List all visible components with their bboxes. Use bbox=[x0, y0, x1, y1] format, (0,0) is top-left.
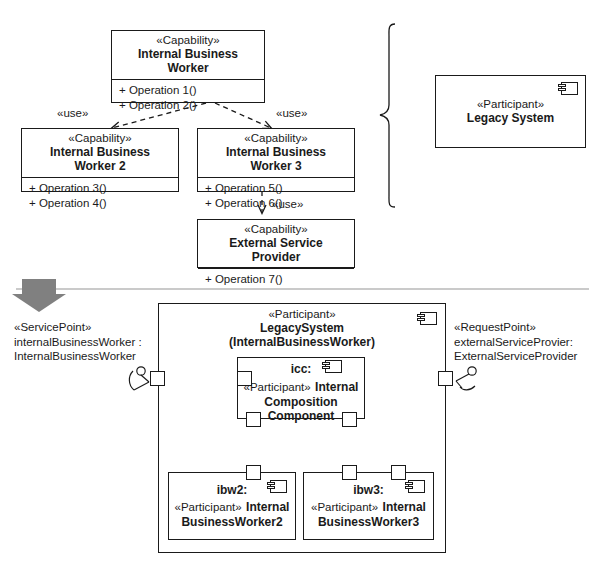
servicepoint-stereotype: «ServicePoint» bbox=[14, 320, 142, 335]
component-icon bbox=[408, 480, 425, 493]
port-icc-bottom-right[interactable] bbox=[342, 412, 357, 427]
class-name: External Service Provider bbox=[204, 236, 348, 264]
port-ibw3-top-right[interactable] bbox=[391, 465, 406, 480]
required-interface-socket-servicepoint bbox=[129, 371, 134, 390]
component-icon bbox=[561, 82, 578, 95]
operation-item: + Operation 5() bbox=[205, 181, 347, 196]
port-requestpoint-outer[interactable] bbox=[438, 371, 453, 386]
class-stereotype: «Capability» bbox=[28, 132, 172, 145]
ibw2-name-line2: BusinessWorker2 bbox=[181, 515, 282, 529]
icc-instance-name: icc: bbox=[291, 362, 312, 376]
class-name: Internal Business Worker 3 bbox=[204, 145, 348, 173]
servicepoint-annotation: «ServicePoint» internalBusinessWorker : … bbox=[14, 320, 142, 364]
socket-stem-servicepoint bbox=[134, 382, 149, 390]
ibw3-name-line2: BusinessWorker3 bbox=[318, 515, 419, 529]
outer-component-stereotype: «Participant» bbox=[159, 308, 445, 321]
class-stereotype: «Capability» bbox=[204, 132, 348, 145]
servicepoint-instance: internalBusinessWorker : bbox=[14, 335, 142, 350]
requestpoint-stereotype: «RequestPoint» bbox=[454, 320, 577, 335]
grouping-brace bbox=[380, 24, 395, 207]
operation-item: + Operation 2() bbox=[119, 98, 257, 113]
icc-name-line2: Composition bbox=[238, 395, 364, 409]
outer-component-name: LegacySystem bbox=[159, 321, 445, 335]
component-internal-composition-component[interactable]: icc: «Participant» Internal Composition … bbox=[237, 357, 365, 419]
requestpoint-annotation: «RequestPoint» externalServiceProvier: E… bbox=[454, 320, 577, 364]
component-stereotype: «Participant» bbox=[477, 98, 544, 111]
class-name: Internal Business Worker 2 bbox=[28, 145, 172, 173]
port-ibw2-top[interactable] bbox=[246, 465, 261, 480]
ibw3-name-line1: Internal bbox=[383, 500, 426, 514]
use-label-ibw2: «use» bbox=[57, 106, 88, 121]
outer-component-realizes: (InternalBusinessWorker) bbox=[159, 335, 445, 349]
component-icon bbox=[420, 312, 437, 325]
operation-item: + Operation 4() bbox=[29, 196, 171, 211]
component-icon bbox=[325, 360, 342, 373]
class-internal-business-worker-3[interactable]: «Capability» Internal Business Worker 3 … bbox=[197, 128, 355, 192]
component-legacy-system[interactable]: «Participant» Legacy System bbox=[435, 75, 586, 148]
component-ibw2-part[interactable]: ibw2: «Participant» Internal BusinessWor… bbox=[168, 472, 296, 540]
component-icon bbox=[270, 480, 287, 493]
class-external-service-provider[interactable]: «Capability» External Service Provider +… bbox=[197, 219, 355, 268]
class-operations: + Operation 3() + Operation 4() bbox=[22, 178, 178, 213]
ibw3-stereotype: «Participant» bbox=[311, 501, 378, 513]
transformation-arrow bbox=[12, 279, 66, 312]
class-name: Internal Business Worker bbox=[118, 47, 258, 75]
use-label-esp: «use» bbox=[272, 197, 303, 212]
operation-item: + Operation 1() bbox=[119, 83, 257, 98]
requestpoint-instance: externalServiceProvier: bbox=[454, 335, 577, 350]
use-label-ibw3: «use» bbox=[276, 106, 307, 121]
port-icc-left[interactable] bbox=[237, 371, 252, 386]
class-operations: + Operation 7() bbox=[198, 269, 354, 290]
icc-name-line1: Internal bbox=[315, 380, 358, 394]
class-internal-business-worker-2[interactable]: «Capability» Internal Business Worker 2 … bbox=[21, 128, 179, 192]
uml-diagram-canvas: «Capability» Internal Business Worker + … bbox=[0, 0, 601, 571]
servicepoint-type: InternalBusinessWorker bbox=[14, 349, 142, 364]
operation-item: + Operation 3() bbox=[29, 181, 171, 196]
component-name: Legacy System bbox=[467, 111, 554, 125]
socket-stem-requestpoint bbox=[456, 381, 462, 388]
component-ibw3-part[interactable]: ibw3: «Participant» Internal BusinessWor… bbox=[303, 472, 434, 540]
ball-stem-requestpoint bbox=[456, 374, 469, 381]
class-stereotype: «Capability» bbox=[118, 34, 258, 47]
class-stereotype: «Capability» bbox=[204, 223, 348, 236]
class-internal-business-worker[interactable]: «Capability» Internal Business Worker + … bbox=[111, 30, 265, 103]
ibw2-instance-name: ibw2: bbox=[217, 483, 248, 497]
ibw2-name-line1: Internal bbox=[246, 500, 289, 514]
port-ibw3-top-left[interactable] bbox=[342, 465, 357, 480]
ball-stem-servicepoint bbox=[141, 375, 149, 382]
class-operations: + Operation 1() + Operation 2() bbox=[112, 80, 264, 115]
port-servicepoint-outer[interactable] bbox=[150, 371, 165, 386]
required-interface-socket-requestpoint bbox=[460, 386, 475, 390]
icc-stereotype: «Participant» bbox=[244, 381, 311, 393]
ibw3-instance-name: ibw3: bbox=[353, 483, 384, 497]
port-icc-bottom-left[interactable] bbox=[246, 412, 261, 427]
operation-item: + Operation 7() bbox=[205, 272, 347, 287]
ibw2-stereotype: «Participant» bbox=[175, 501, 242, 513]
provided-interface-ball-servicepoint bbox=[137, 367, 145, 375]
requestpoint-type: ExternalServiceProvider bbox=[454, 349, 577, 364]
provided-interface-ball-requestpoint bbox=[468, 367, 476, 375]
